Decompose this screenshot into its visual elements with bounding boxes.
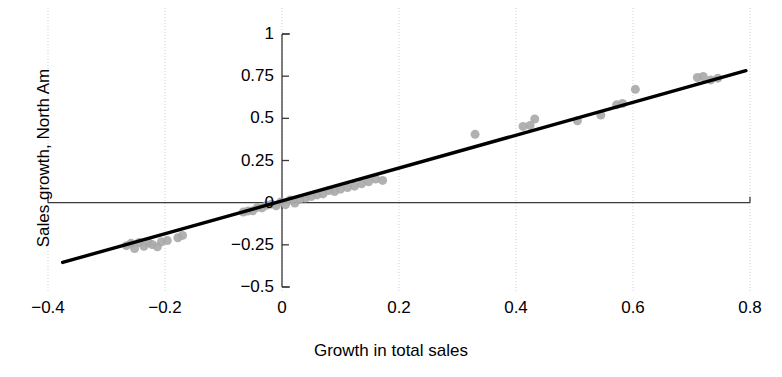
x-tick-label-2: 0 <box>277 298 286 318</box>
data-point <box>163 236 172 245</box>
x-tick-label-5: 0.6 <box>621 298 645 318</box>
y-tick-label-3: 0.25 <box>204 151 274 171</box>
regression-line <box>63 71 746 263</box>
x-tick-label-6: 0.8 <box>738 298 762 318</box>
data-point <box>178 231 187 240</box>
x-tick-label-0: −0.4 <box>31 298 65 318</box>
y-tick-label-6: 1 <box>204 24 274 44</box>
y-tick-label-0: −0.5 <box>204 277 274 297</box>
x-tick-label-3: 0.2 <box>387 298 411 318</box>
data-point <box>378 176 387 185</box>
x-tick-label-4: 0.4 <box>504 298 528 318</box>
data-point <box>471 130 480 139</box>
data-point <box>631 85 640 94</box>
data-point <box>530 115 539 124</box>
y-tick-label-2: 0 <box>204 193 274 213</box>
y-tick-label-4: 0.5 <box>204 108 274 128</box>
y-tick-label-1: −0.25 <box>204 235 274 255</box>
x-tick-label-1: −0.2 <box>148 298 182 318</box>
chart-figure: Sales growth, North Am Growth in total s… <box>0 0 782 377</box>
y-axis-title: Sales growth, North Am <box>34 28 54 288</box>
y-tick-label-5: 0.75 <box>204 66 274 86</box>
x-axis-title: Growth in total sales <box>0 341 782 361</box>
scatter-plot-canvas <box>0 0 782 377</box>
